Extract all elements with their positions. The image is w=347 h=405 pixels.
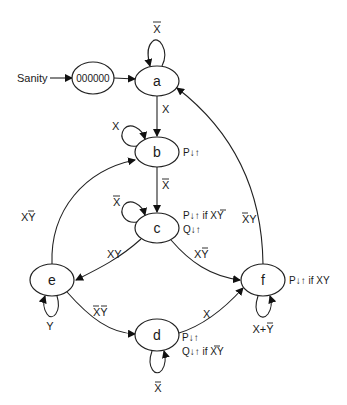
edge-f-self (256, 296, 271, 317)
state-initial-label: 000000 (76, 73, 110, 84)
edge-f-self-label: X+Y (252, 323, 274, 335)
edge-e-b (52, 160, 135, 264)
state-c-output-2: Q↓↑ (183, 224, 201, 235)
edge-c-e-label: XY (107, 248, 122, 260)
edge-init-a (114, 78, 135, 79)
state-f-label: f (261, 272, 265, 288)
edge-c-f (171, 240, 240, 280)
edge-e-self (44, 296, 59, 317)
edge-d-f-label: X (203, 308, 211, 320)
edge-c-f-label: XY (194, 248, 209, 260)
state-b-output: P↓↑ (183, 147, 200, 158)
edge-d-f (179, 288, 243, 333)
edge-f-a-label: XY (242, 213, 257, 225)
edge-c-self-label: X (113, 196, 121, 208)
edge-a-b-label: X (162, 103, 170, 115)
state-e-label: e (48, 272, 56, 288)
state-b-label: b (153, 144, 161, 160)
edge-b-c-label: X (162, 179, 170, 191)
edge-f-a (177, 88, 263, 264)
edge-e-b-label: XY (21, 211, 36, 223)
state-d-label: d (153, 327, 161, 343)
state-diagram: Sanity 000000 a X X b P↓↑ X X c P↓↑ if X… (0, 0, 347, 405)
state-a-label: a (153, 73, 161, 89)
edge-d-self (150, 351, 165, 373)
edge-d-self-label: X (154, 382, 162, 394)
state-c-output-1: P↓↑ if XY (183, 210, 224, 221)
state-f-output: P↓↑ if XY (289, 275, 330, 286)
state-d-output-2: Q↓↑ if XY (182, 346, 224, 357)
edge-a-self-label: X (153, 23, 161, 35)
edge-b-self-label: X (112, 120, 120, 132)
edge-e-self-label: Y (46, 320, 54, 332)
state-c-label: c (154, 220, 161, 236)
sanity-label: Sanity (17, 72, 48, 84)
state-d-output-1: P↓↑ (182, 332, 199, 343)
edge-a-self (148, 40, 165, 66)
edge-e-d-label: XY (93, 306, 108, 318)
